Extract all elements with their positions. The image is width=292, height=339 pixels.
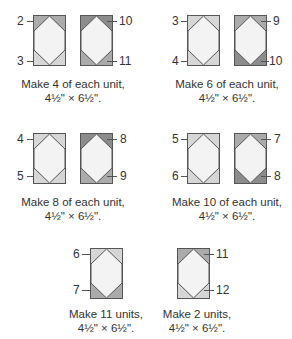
fabric-label: 2 <box>17 15 24 27</box>
unit-caption: Make 6 of each unit, 4½" × 6½". <box>164 77 290 105</box>
fabric-label: 3 <box>17 55 24 67</box>
quilt-unit <box>187 133 220 184</box>
fabric-label: 10 <box>269 55 282 67</box>
fabric-label: 5 <box>17 170 24 182</box>
leader-line <box>261 176 271 177</box>
leader-line <box>107 21 117 22</box>
leader-line <box>261 21 271 22</box>
unit-caption: Make 8 of each unit, 4½" × 6½". <box>10 195 136 223</box>
fabric-label: 9 <box>273 15 280 27</box>
fabric-label: 7 <box>274 133 281 145</box>
caption-line: Make 8 of each unit, <box>10 195 136 209</box>
fabric-label: 5 <box>172 133 179 145</box>
unit-caption: Make 4 of each unit, 4½" × 6½". <box>10 77 136 105</box>
caption-line: Make 6 of each unit, <box>164 77 290 91</box>
leader-line <box>261 61 269 62</box>
caption-line: Make 4 of each unit, <box>10 77 136 91</box>
caption-dimensions: 4½" × 6½". <box>164 91 290 105</box>
fabric-label: 11 <box>216 248 228 260</box>
leader-line <box>204 254 214 255</box>
unit-caption: Make 2 units, 4½" × 6½". <box>152 307 242 335</box>
fabric-label: 11 <box>119 55 131 67</box>
leader-line <box>204 290 214 291</box>
fabric-label: 3 <box>172 15 179 27</box>
fabric-label: 12 <box>216 284 229 296</box>
leader-line <box>107 61 117 62</box>
quilt-unit <box>234 15 267 66</box>
caption-line: Make 10 of each unit, <box>164 195 290 209</box>
caption-dimensions: 4½" × 6½". <box>152 321 242 335</box>
quilt-unit <box>187 15 220 66</box>
fabric-label: 8 <box>274 170 281 182</box>
quilt-unit <box>80 15 113 66</box>
caption-dimensions: 4½" × 6½". <box>56 321 156 335</box>
fabric-label: 9 <box>120 170 127 182</box>
fabric-label: 4 <box>172 55 179 67</box>
leader-line <box>261 139 271 140</box>
leader-line <box>107 176 117 177</box>
unit-caption: Make 10 of each unit, 4½" × 6½". <box>164 195 290 223</box>
quilt-unit <box>90 248 123 299</box>
fabric-label: 6 <box>73 248 80 260</box>
fabric-label: 7 <box>73 284 80 296</box>
caption-line: Make 2 units, <box>152 307 242 321</box>
unit-caption: Make 11 units, 4½" × 6½". <box>56 307 156 335</box>
fabric-label: 10 <box>119 15 132 27</box>
caption-dimensions: 4½" × 6½". <box>10 91 136 105</box>
fabric-label: 4 <box>17 133 24 145</box>
caption-line: Make 11 units, <box>56 307 156 321</box>
caption-dimensions: 4½" × 6½". <box>10 209 136 223</box>
fabric-label: 6 <box>172 170 179 182</box>
fabric-label: 8 <box>120 133 127 145</box>
quilt-unit <box>33 15 66 66</box>
leader-line <box>107 139 117 140</box>
caption-dimensions: 4½" × 6½". <box>164 209 290 223</box>
quilt-unit <box>177 248 210 299</box>
quilt-unit <box>33 133 66 184</box>
